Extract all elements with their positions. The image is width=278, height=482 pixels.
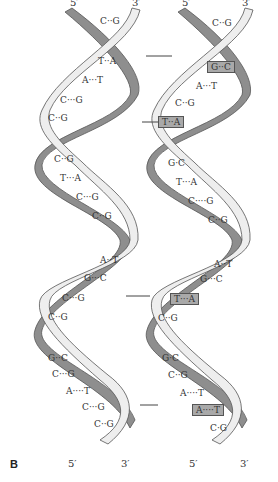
right-base-pair: A··T [214,259,232,269]
right-base-pair: G·C [168,158,185,168]
right-base-pair: C··G [208,215,228,225]
right-top-5prime-label: 5′ [182,0,191,8]
right-base-pair-highlighted: A····T [192,404,224,416]
left-top-5prime-label: 5′ [70,0,79,8]
right-base-pair-highlighted: T··A [158,116,184,128]
right-base-pair: C··G [175,98,195,108]
left-base-pair: C··G [48,312,68,322]
left-base-pair: G···C [84,273,107,283]
left-base-pair: C··G [92,211,112,221]
right-helix [146,8,253,444]
right-base-pair: C··G [158,313,178,323]
left-base-pair: C···G [52,369,75,379]
right-base-pair: A···T [196,81,217,91]
right-base-pair: G·C [162,353,179,363]
left-base-pair: A···T [82,75,103,85]
right-base-pair-highlighted: G··C [207,61,235,73]
left-base-pair: T··A [98,56,116,66]
right-bottom-5prime-label: 5′ [189,458,198,469]
right-base-pair: C··G [212,18,232,28]
left-base-pair: C··G [48,113,68,123]
panel-label: B [10,458,18,470]
right-base-pair: C·G [210,423,227,433]
right-base-pair: G···C [200,274,223,284]
right-bottom-3prime-label: 3′ [240,458,249,469]
left-helix [34,8,140,444]
left-bottom-5prime-label: 5′ [68,458,77,469]
right-base-pair: T···A [176,177,197,187]
left-top-3prime-label: 3′ [132,0,141,8]
left-base-pair: C···G [62,293,85,303]
left-base-pair: T···A [60,173,81,183]
left-base-pair: C···G [82,402,105,412]
left-base-pair: C···G [60,95,83,105]
right-top-3prime-label: 3′ [242,0,251,8]
left-base-pair: C···G [76,192,99,202]
left-base-pair: C··G [100,16,120,26]
right-base-pair: C··G [168,370,188,380]
left-base-pair: A··T [100,255,118,265]
right-base-pair-highlighted: T···A [170,293,199,305]
left-bottom-3prime-label: 3′ [121,458,130,469]
dna-double-helix-diagram [0,0,278,482]
left-base-pair: A····T [66,386,90,396]
left-base-pair: C··G [54,154,74,164]
right-base-pair: A····T [180,388,204,398]
right-base-pair: C····G [188,196,214,206]
left-base-pair: C··G [94,419,114,429]
left-base-pair: G··C [48,353,68,363]
